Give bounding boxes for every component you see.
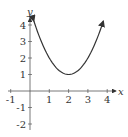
y-tick-label: 4 <box>20 20 26 31</box>
y-axis-label: y <box>26 6 33 17</box>
x-tick-label: 3 <box>85 94 91 105</box>
parabola-curve <box>34 21 103 74</box>
x-tick-label: -1 <box>6 94 16 105</box>
y-tick-label: 2 <box>20 53 26 64</box>
x-axis-label: x <box>118 86 124 97</box>
y-tick-label: -2 <box>16 119 26 130</box>
x-tick-label: 2 <box>65 94 71 105</box>
y-tick-label: 3 <box>20 36 26 47</box>
y-tick-label: 1 <box>20 69 26 80</box>
x-tick-label: 1 <box>46 94 52 105</box>
y-tick-label: -1 <box>16 102 26 113</box>
chart: -11234 4321-1-2 x y <box>0 0 128 137</box>
x-tick-label: 4 <box>104 94 110 105</box>
